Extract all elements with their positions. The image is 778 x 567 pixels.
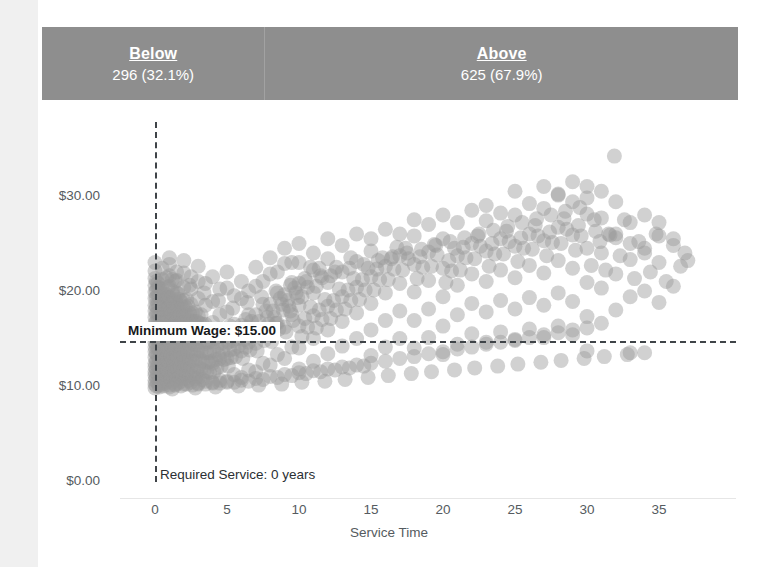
scatter-point (356, 257, 371, 272)
scatter-point (378, 354, 393, 369)
scatter-point (467, 360, 482, 375)
scatter-point (283, 278, 298, 293)
scatter-point (392, 351, 407, 366)
y-tick-label: $10.00 (30, 379, 100, 393)
scatter-point (652, 255, 667, 270)
scatter-point (436, 289, 451, 304)
scatter-point (464, 203, 479, 218)
scatter-point (554, 353, 569, 368)
scatter-point (500, 219, 515, 234)
scatter-point (637, 241, 652, 256)
scatter-point (457, 230, 472, 245)
scatter-points-layer (120, 120, 736, 482)
scatter-point (378, 285, 393, 300)
scatter-point (522, 258, 537, 273)
scatter-point (361, 370, 376, 385)
scatter-point (277, 241, 292, 256)
scatter-point (381, 368, 396, 383)
scatter-point (284, 255, 299, 270)
scatter-point (306, 246, 321, 261)
scatter-point (168, 274, 183, 289)
scatter-point (508, 302, 523, 317)
scatter-point (407, 212, 422, 227)
scatter-point (407, 349, 422, 364)
scatter-point (508, 270, 523, 285)
scatter-point (580, 275, 595, 290)
scatter-point (479, 337, 494, 352)
scatter-point (544, 208, 559, 223)
scatter-point (299, 274, 314, 289)
scatter-point (464, 326, 479, 341)
scatter-point (623, 289, 638, 304)
scatter-point (666, 279, 681, 294)
x-tick-label: 0 (135, 503, 175, 517)
summary-below-count: 296 (32.1%) (112, 65, 194, 84)
scatter-point (378, 313, 393, 328)
scatter-point (197, 285, 212, 300)
scatter-point (421, 302, 436, 317)
scatter-point (294, 375, 309, 390)
scatter-point (623, 252, 638, 267)
scatter-point (335, 314, 350, 329)
scatter-point (565, 174, 580, 189)
scatter-point (637, 284, 652, 299)
scatter-point (666, 231, 681, 246)
scatter-point (392, 304, 407, 319)
scatter-point (680, 253, 695, 268)
scatter-point (450, 307, 465, 322)
scatter-point (364, 322, 379, 337)
scatter-point (338, 372, 353, 387)
scatter-point (508, 184, 523, 199)
scatter-point (364, 231, 379, 246)
scatter-point (182, 278, 197, 293)
scatter-point (392, 276, 407, 291)
x-axis-title: Service Time (0, 525, 778, 540)
x-tick-label: 5 (207, 503, 247, 517)
scatter-point (371, 253, 386, 268)
scatter-point (565, 261, 580, 276)
scatter-point (597, 349, 612, 364)
scatter-point (623, 215, 638, 230)
scatter-point (510, 357, 525, 372)
y-tick-label: $20.00 (30, 284, 100, 298)
scatter-point (436, 319, 451, 334)
scatter-point (551, 325, 566, 340)
scatter-point (652, 215, 667, 230)
scatter-point (620, 347, 635, 362)
required-service-annotation: Required Service: 0 years (160, 467, 315, 483)
scatter-point (536, 266, 551, 281)
x-tick-label: 35 (639, 503, 679, 517)
scatter-point (493, 206, 508, 221)
scatter-point (254, 289, 269, 304)
x-tick-label: 25 (495, 503, 535, 517)
scatter-point (594, 281, 609, 296)
scatter-point (608, 194, 623, 209)
scatter-point (364, 356, 379, 371)
summary-segment-above[interactable]: Above 625 (67.9%) (265, 27, 738, 100)
scatter-point (328, 265, 343, 280)
scatter-point (378, 222, 393, 237)
summary-above-count: 625 (67.9%) (461, 65, 543, 84)
x-tick-label: 15 (351, 503, 391, 517)
scatter-point (627, 271, 642, 286)
scatter-point (479, 274, 494, 289)
summary-above-title: Above (477, 44, 527, 63)
x-axis-rule (120, 498, 736, 499)
scatter-point (407, 313, 422, 328)
scatter-point (486, 223, 501, 238)
scatter-point (522, 196, 537, 211)
required-service-reference-line (155, 122, 157, 482)
scatter-point (464, 296, 479, 311)
scatter-point (587, 212, 602, 227)
scatter-point (404, 366, 419, 381)
scatter-point (608, 303, 623, 318)
y-tick-label: $30.00 (30, 189, 100, 203)
summary-segment-below[interactable]: Below 296 (32.1%) (42, 27, 265, 100)
scatter-point (533, 355, 548, 370)
scatter-point (551, 285, 566, 300)
scatter-point (594, 184, 609, 199)
scatter-point (349, 305, 364, 320)
scatter-point (577, 351, 592, 366)
scatter-point (536, 179, 551, 194)
scatter-point (320, 346, 335, 361)
